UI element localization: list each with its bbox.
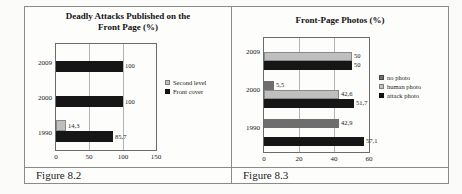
- chart-title: Front-Page Photos (%): [232, 15, 448, 26]
- legend-item: Second level: [165, 79, 206, 86]
- bar-value-label: 14,3: [68, 122, 79, 129]
- legend-label: Second level: [173, 79, 206, 86]
- bar: [264, 99, 354, 108]
- category-label: 2009: [28, 59, 52, 67]
- bar-value-label: 50: [354, 61, 361, 68]
- x-tick-label: 150: [146, 153, 166, 161]
- chart-title: Deadly Attacks Published on theFront Pag…: [25, 11, 231, 33]
- bar-value-label: 85,7: [115, 133, 126, 140]
- figure-cell-8-2: Deadly Attacks Published on theFront Pag…: [25, 7, 231, 183]
- bar: [264, 81, 274, 90]
- x-tick-label: 60: [359, 155, 379, 163]
- legend-item: attack photo: [379, 92, 421, 99]
- legend: Second levelFront cover: [165, 79, 206, 97]
- category-label: 2000: [28, 94, 52, 102]
- legend-item: Front cover: [165, 88, 206, 95]
- bar-value-label: 57,1: [366, 137, 377, 144]
- x-tick-label: 0: [254, 155, 274, 163]
- legend-item: human photo: [379, 83, 421, 90]
- bar: [264, 61, 352, 70]
- bar-value-label: 42,6: [341, 90, 352, 97]
- figure-cell-8-3: Front-Page Photos (%)2009505020005,542,6…: [231, 7, 448, 183]
- bar-value-label: 100: [125, 62, 135, 69]
- bar: [56, 120, 66, 131]
- legend-label: human photo: [387, 83, 421, 90]
- chart-title-line: Front-Page Photos (%): [232, 15, 448, 26]
- x-tick-label: 0: [46, 153, 66, 161]
- legend-swatch-icon: [379, 75, 384, 80]
- legend-swatch-icon: [165, 89, 170, 94]
- bar-value-label: 5,5: [276, 81, 284, 88]
- bar-value-label: 42,9: [341, 119, 352, 126]
- bar-value-label: 50: [354, 52, 361, 59]
- chart-title-line: Deadly Attacks Published on the: [25, 11, 231, 22]
- legend: no photohuman photoattack photo: [379, 74, 421, 101]
- bar: [56, 131, 113, 142]
- legend-label: attack photo: [387, 92, 419, 99]
- category-label: 1990: [236, 124, 260, 132]
- legend-item: no photo: [379, 74, 421, 81]
- bar: [264, 119, 339, 128]
- category-label: 2000: [236, 86, 260, 94]
- chart-title-line: Front Page (%): [25, 22, 231, 33]
- bar-value-label: 51,7: [356, 99, 367, 106]
- bar: [264, 90, 339, 99]
- legend-swatch-icon: [165, 80, 170, 85]
- category-label: 1990: [28, 129, 52, 137]
- x-tick-label: 40: [324, 155, 344, 163]
- page: { "figures": [ { "caption": "Figure 8.2"…: [0, 0, 462, 194]
- figure-caption: Figure 8.3: [232, 167, 448, 183]
- bar: [56, 96, 123, 107]
- figure-panel-table: Deadly Attacks Published on theFront Pag…: [24, 6, 449, 184]
- bar: [264, 137, 364, 146]
- bar-value-label: 100: [125, 98, 135, 105]
- bar: [264, 52, 352, 61]
- legend-swatch-icon: [379, 84, 384, 89]
- figure-caption: Figure 8.2: [25, 167, 231, 183]
- x-tick-label: 20: [289, 155, 309, 163]
- bar-chart-front-page-photos: Front-Page Photos (%)2009505020005,542,6…: [232, 7, 448, 167]
- category-label: 2009: [236, 48, 260, 56]
- bar-chart-deadly-attacks: Deadly Attacks Published on theFront Pag…: [25, 7, 231, 167]
- x-tick-label: 50: [79, 153, 99, 161]
- legend-swatch-icon: [379, 93, 384, 98]
- bar: [56, 61, 123, 72]
- legend-label: Front cover: [173, 88, 203, 95]
- x-tick-label: 100: [113, 153, 133, 161]
- legend-label: no photo: [387, 74, 410, 81]
